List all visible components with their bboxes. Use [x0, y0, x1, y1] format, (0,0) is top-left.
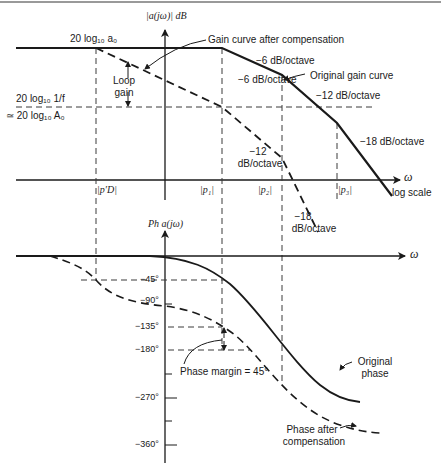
tick-minus360: −360°: [135, 439, 159, 450]
pole-p1-label: |p₁|: [200, 184, 214, 195]
phase-after-comp-curve: [50, 256, 380, 433]
phase-after-comp-label-2: compensation: [280, 436, 348, 447]
phase-margin-label: Phase margin = 45°: [180, 366, 268, 377]
orig-slope-3-label: −18 dB/octave: [360, 136, 424, 147]
tick-minus45: −45°: [140, 274, 159, 285]
tick-minus135: −135°: [135, 321, 159, 332]
magnitude-axis-label: |a(jω)| dB: [146, 10, 187, 21]
pole-p2-label: |p₂|: [258, 184, 272, 195]
log-scale-label: log scale: [392, 187, 431, 198]
original-phase-label-2: phase: [350, 368, 400, 379]
phase-after-comp-label-1: Phase after: [282, 424, 342, 435]
original-gain-label: Original gain curve: [310, 70, 393, 81]
tick-minus90: −90°: [140, 295, 159, 306]
comp-slope-2-line2: dB/octave: [232, 158, 288, 169]
pole-p3-label: |p₃|: [338, 184, 352, 195]
comp-slope-3-line1: −18: [288, 211, 318, 222]
phase-plot: [16, 231, 405, 463]
phase-margin-leader: [184, 340, 222, 364]
comp-slope-1-label: −6 dB/octave: [238, 74, 297, 85]
gain-after-comp-leader: [145, 40, 206, 69]
feedback-level-label-2: ≃ 20 log₁₀ A₀: [6, 110, 65, 121]
feedback-level-label-1: 20 log₁₀ 1/f: [16, 93, 65, 104]
comp-slope-2-line1: −12: [238, 146, 278, 157]
magnitude-plot: [16, 30, 400, 382]
original-phase-label-1: Original: [350, 356, 400, 367]
gain-after-comp-label: Gain curve after compensation: [208, 34, 344, 45]
pole-pd-label: |p′D|: [97, 184, 117, 195]
loop-gain-label-1: Loop: [104, 75, 144, 86]
dc-gain-label: 20 log₁₀ a₀: [70, 33, 117, 44]
phase-axis-label: Ph a(jω): [148, 218, 183, 229]
tick-minus270: −270°: [135, 392, 159, 403]
orig-slope-1-label: −6 dB/octave: [256, 55, 315, 66]
phase-omega-label: ω: [410, 249, 418, 260]
orig-slope-2-label: −12 dB/octave: [316, 90, 380, 101]
magnitude-omega-label: ω: [404, 172, 412, 183]
original-phase-curve: [16, 256, 360, 402]
loop-gain-label-2: gain: [104, 87, 144, 98]
comp-slope-3-line2: dB/octave: [286, 223, 342, 234]
tick-minus180: −180°: [135, 344, 159, 355]
